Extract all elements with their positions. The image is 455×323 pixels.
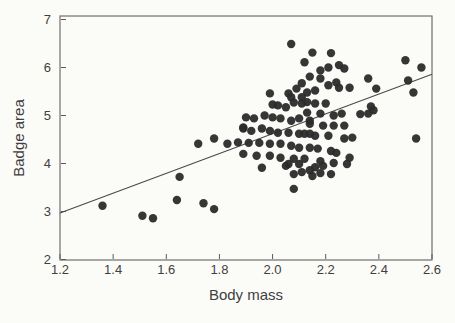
data-point (327, 49, 335, 57)
data-point (306, 120, 314, 128)
data-point (412, 134, 420, 142)
data-point (372, 84, 380, 92)
data-point (311, 86, 319, 94)
data-point (340, 121, 348, 129)
data-point (316, 109, 324, 117)
data-point (338, 109, 346, 117)
data-point (260, 111, 268, 119)
data-point (324, 63, 332, 71)
data-point (295, 114, 303, 122)
data-point (303, 98, 311, 106)
x-tick-label: 1.4 (104, 262, 122, 277)
data-point (266, 140, 274, 148)
data-point (239, 150, 247, 158)
x-tick-label: 2.2 (317, 262, 335, 277)
data-point (242, 113, 250, 121)
x-tick-label: 1.2 (51, 262, 69, 277)
data-point (239, 124, 247, 132)
data-point (290, 98, 298, 106)
x-tick-label: 2.4 (370, 262, 388, 277)
data-point (274, 101, 282, 109)
data-point (319, 121, 327, 129)
data-point (255, 139, 263, 147)
data-point (298, 79, 306, 87)
data-point (340, 134, 348, 142)
data-point (247, 127, 255, 135)
data-point (284, 160, 292, 168)
x-tick-label: 2.6 (423, 262, 441, 277)
data-point (298, 168, 306, 176)
data-point (330, 111, 338, 119)
data-point (417, 63, 425, 71)
data-point (308, 172, 316, 180)
data-point (356, 110, 364, 118)
data-point (311, 163, 319, 171)
data-point (258, 164, 266, 172)
data-point (316, 66, 324, 74)
data-point (314, 144, 322, 152)
data-point (258, 124, 266, 132)
data-point (175, 173, 183, 181)
data-point (199, 199, 207, 207)
data-point (311, 99, 319, 107)
data-point (303, 108, 311, 116)
data-point (210, 205, 218, 213)
data-point (330, 159, 338, 167)
data-point (98, 202, 106, 210)
data-point (311, 132, 319, 140)
data-point (404, 76, 412, 84)
data-point (300, 130, 308, 138)
data-point (276, 140, 284, 148)
y-axis-title: Badge area (10, 99, 27, 177)
x-tick-label: 1.6 (157, 262, 175, 277)
y-tick-label: 5 (44, 108, 51, 123)
data-point (324, 132, 332, 140)
data-point (223, 140, 231, 148)
data-point (252, 152, 260, 160)
data-point (345, 84, 353, 92)
data-point (343, 160, 351, 168)
data-point (295, 144, 303, 152)
plot-frame (60, 16, 432, 260)
data-point (316, 74, 324, 82)
data-point (330, 121, 338, 129)
data-point (266, 152, 274, 160)
data-point (138, 212, 146, 220)
data-point (300, 58, 308, 66)
data-point (274, 129, 282, 137)
data-point (306, 72, 314, 80)
data-point (173, 196, 181, 204)
y-tick-label: 6 (44, 60, 51, 75)
data-point (287, 142, 295, 150)
data-point (332, 149, 340, 157)
data-point (194, 140, 202, 148)
data-point (245, 139, 253, 147)
data-point (210, 134, 218, 142)
data-point (284, 129, 292, 137)
data-point (409, 88, 417, 96)
data-point (308, 48, 316, 56)
data-point (327, 170, 335, 178)
data-point (401, 56, 409, 64)
data-point (276, 154, 284, 162)
data-point (282, 103, 290, 111)
scatter-figure: 1.21.41.61.82.02.22.42.6234567 Body mass… (0, 0, 455, 323)
data-point (290, 170, 298, 178)
data-point (306, 144, 314, 152)
x-axis-title: Body mass (209, 286, 283, 303)
data-point (266, 127, 274, 135)
data-point (149, 214, 157, 222)
scatter-plot: 1.21.41.61.82.02.22.42.6234567 Body mass… (0, 0, 455, 323)
y-tick-label: 4 (44, 156, 51, 171)
y-tick-label: 3 (44, 204, 51, 219)
data-point (324, 81, 332, 89)
data-point (276, 114, 284, 122)
data-point (340, 64, 348, 72)
data-point (290, 185, 298, 193)
y-tick-label: 7 (44, 12, 51, 27)
data-point (268, 113, 276, 121)
data-point (364, 109, 372, 117)
data-point (287, 40, 295, 48)
x-tick-label: 2.0 (264, 262, 282, 277)
data-point (295, 160, 303, 168)
